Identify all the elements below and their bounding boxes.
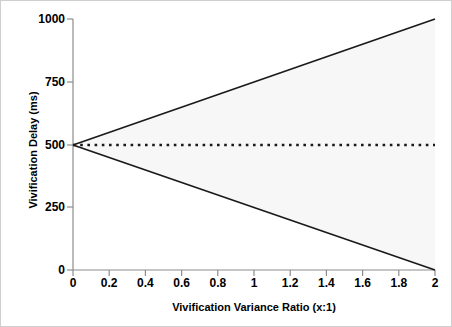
x-tick-label-1.8: 1.8 — [379, 277, 419, 290]
x-tick-label-0.4: 0.4 — [125, 277, 165, 290]
x-tick-label-1.6: 1.6 — [343, 277, 383, 290]
x-tick-label-1.8-wrap: 1.8 — [379, 277, 419, 290]
x-tick-label-0.6-wrap: 0.6 — [162, 277, 202, 290]
x-tick-label-0: 0 — [53, 277, 93, 290]
y-axis-title: Vivification Delay (ms) — [27, 20, 39, 280]
x-tick-label-0.4-wrap: 0.4 — [125, 277, 165, 290]
figure-frame: 1000 750 500 250 0 0 0.2 0.4 0.6 0.8 1 1… — [0, 0, 452, 327]
x-tick-label-1.4-wrap: 1.4 — [306, 277, 346, 290]
x-tick-label-0.2: 0.2 — [89, 277, 129, 290]
x-tick-label-2-wrap: 2 — [415, 277, 452, 290]
x-axis-title: Vivification Variance Ratio (x:1) — [73, 301, 435, 313]
x-tick-label-1.4: 1.4 — [306, 277, 346, 290]
x-tick-label-1.2: 1.2 — [270, 277, 310, 290]
x-tick-label-0.8: 0.8 — [198, 277, 238, 290]
x-tick-label-1.2-wrap: 1.2 — [270, 277, 310, 290]
x-tick-label-1-wrap: 1 — [234, 277, 274, 290]
x-tick-label-1: 1 — [234, 277, 274, 290]
x-tick-label-1.6-wrap: 1.6 — [343, 277, 383, 290]
x-tick-label-2: 2 — [415, 277, 452, 290]
x-tick-label-0.2-wrap: 0.2 — [89, 277, 129, 290]
x-tick-label-0.6: 0.6 — [162, 277, 202, 290]
x-tick-label-0-wrap: 0 — [53, 277, 93, 290]
x-tick-label-0.8-wrap: 0.8 — [198, 277, 238, 290]
